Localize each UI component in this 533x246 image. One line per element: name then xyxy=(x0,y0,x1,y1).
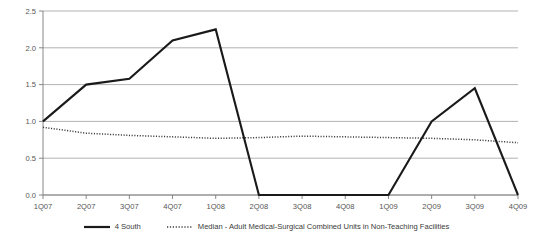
series-line-4-south xyxy=(43,29,518,195)
x-tick-labels: 1Q072Q073Q074Q071Q082Q083Q084Q081Q092Q09… xyxy=(34,202,528,211)
svg-text:2Q09: 2Q09 xyxy=(422,202,441,211)
svg-text:2.0: 2.0 xyxy=(25,44,36,53)
svg-text:3Q09: 3Q09 xyxy=(466,202,485,211)
svg-text:4Q07: 4Q07 xyxy=(163,202,182,211)
svg-text:0.0: 0.0 xyxy=(25,191,36,200)
svg-text:2.5: 2.5 xyxy=(25,7,36,16)
legend-label-4-south: 4 South xyxy=(115,222,141,231)
line-chart: 0.00.51.01.52.02.5 1Q072Q073Q074Q071Q082… xyxy=(0,0,533,246)
legend-swatch-dotted-icon xyxy=(167,223,193,231)
legend-item-median: Median - Adult Medical-Surgical Combined… xyxy=(167,222,450,231)
plot-area: 0.00.51.01.52.02.5 1Q072Q073Q074Q071Q082… xyxy=(0,0,533,212)
legend-swatch-solid-icon xyxy=(84,223,110,231)
svg-text:1.5: 1.5 xyxy=(25,80,36,89)
svg-text:4Q08: 4Q08 xyxy=(336,202,355,211)
svg-text:1.0: 1.0 xyxy=(25,117,36,126)
svg-text:2Q07: 2Q07 xyxy=(77,202,96,211)
svg-text:3Q08: 3Q08 xyxy=(293,202,312,211)
legend-label-median: Median - Adult Medical-Surgical Combined… xyxy=(198,222,450,231)
svg-text:3Q07: 3Q07 xyxy=(120,202,139,211)
y-axis xyxy=(39,11,43,195)
chart-legend: 4 South Median - Adult Medical-Surgical … xyxy=(0,222,533,231)
gridlines xyxy=(43,11,518,195)
series-line-median xyxy=(43,127,518,142)
svg-text:1Q09: 1Q09 xyxy=(379,202,398,211)
svg-text:0.5: 0.5 xyxy=(25,154,36,163)
svg-text:1Q08: 1Q08 xyxy=(206,202,225,211)
legend-item-4-south: 4 South xyxy=(84,222,141,231)
svg-text:4Q09: 4Q09 xyxy=(509,202,528,211)
svg-text:2Q08: 2Q08 xyxy=(250,202,269,211)
y-tick-labels: 0.00.51.01.52.02.5 xyxy=(25,7,36,200)
svg-text:1Q07: 1Q07 xyxy=(34,202,53,211)
plot-svg: 0.00.51.01.52.02.5 1Q072Q073Q074Q071Q082… xyxy=(0,0,533,212)
